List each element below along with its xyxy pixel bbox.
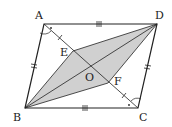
label-f: F: [114, 75, 122, 88]
diagonal-bd: [25, 24, 157, 108]
angle-dot-c: [128, 104, 130, 106]
label-a: A: [34, 9, 44, 22]
label-e: E: [60, 46, 68, 59]
label-d: D: [155, 9, 164, 22]
label-o: O: [85, 71, 94, 84]
angle-dot-a: [50, 27, 52, 29]
label-b: B: [13, 111, 21, 124]
parallelogram-diagram: A D B C E F O: [0, 0, 172, 127]
label-c: C: [139, 111, 147, 124]
